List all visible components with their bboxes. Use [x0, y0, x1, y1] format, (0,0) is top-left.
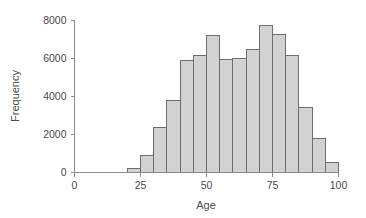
x-tick-label: 25	[135, 179, 147, 191]
bars-group	[127, 26, 338, 173]
histogram-bar	[299, 108, 312, 173]
histogram-bar	[220, 59, 233, 172]
x-tick-label: 75	[267, 179, 279, 191]
histogram-bar	[154, 128, 167, 173]
histogram-bar	[325, 163, 338, 173]
x-tick-label: 50	[201, 179, 213, 191]
y-tick-label: 8000	[43, 14, 67, 26]
y-tick-label: 0	[61, 166, 67, 178]
histogram-bar	[180, 61, 193, 173]
histogram-bar	[193, 55, 206, 172]
y-tick-label: 6000	[43, 52, 67, 64]
chart-canvas: 02000400060008000 0255075100 Age Frequen…	[0, 0, 366, 218]
histogram-bar	[259, 26, 272, 173]
histogram-bar	[246, 50, 259, 173]
histogram-bar	[233, 58, 246, 172]
y-axis-title: Frequency	[9, 70, 21, 122]
x-tick-label: 0	[72, 179, 78, 191]
x-tick-label: 100	[330, 179, 348, 191]
x-axis-title: Age	[196, 199, 216, 211]
histogram-bar	[312, 138, 325, 172]
histogram-bar	[167, 100, 180, 172]
y-ticks-group: 02000400060008000	[43, 14, 74, 179]
x-ticks-group: 0255075100	[72, 173, 348, 191]
histogram-bar	[141, 155, 154, 172]
histogram-bar	[127, 169, 140, 173]
histogram-bar	[286, 55, 299, 172]
histogram-bar	[207, 35, 220, 172]
histogram-figure: 02000400060008000 0255075100 Age Frequen…	[0, 0, 366, 218]
y-tick-label: 4000	[43, 90, 67, 102]
y-tick-label: 2000	[43, 128, 67, 140]
histogram-bar	[273, 34, 286, 172]
